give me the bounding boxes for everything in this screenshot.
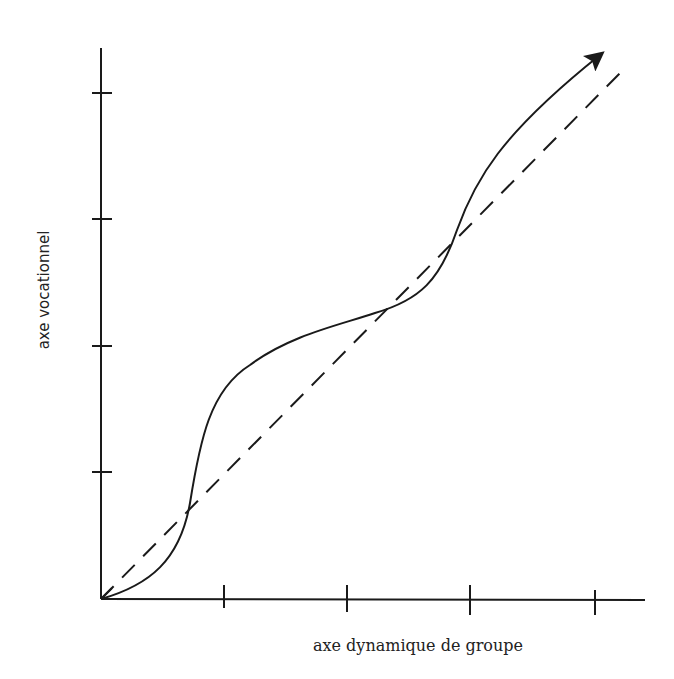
dashed-diagonal-line <box>101 68 625 599</box>
solid-trajectory-curve <box>101 55 600 599</box>
x-axis-label: axe dynamique de groupe <box>313 636 523 655</box>
y-axis-label: axe vocationnel <box>35 231 53 350</box>
diagram-canvas <box>0 0 674 679</box>
x-axis <box>101 585 645 615</box>
y-axis <box>92 48 112 599</box>
